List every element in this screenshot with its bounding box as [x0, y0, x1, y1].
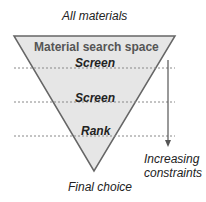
arrow-down-icon — [165, 140, 171, 147]
bottom-label: Final choice — [68, 180, 132, 194]
arrow-label-line2: constraints — [144, 166, 202, 180]
top-label: All materials — [62, 9, 127, 23]
stage-label-1: Screen — [75, 56, 115, 70]
arrow-label-line1: Increasing — [144, 152, 199, 166]
stage-label-3: Rank — [81, 124, 110, 138]
stage-label-2: Screen — [75, 91, 115, 105]
funnel-header: Material search space — [34, 40, 159, 54]
